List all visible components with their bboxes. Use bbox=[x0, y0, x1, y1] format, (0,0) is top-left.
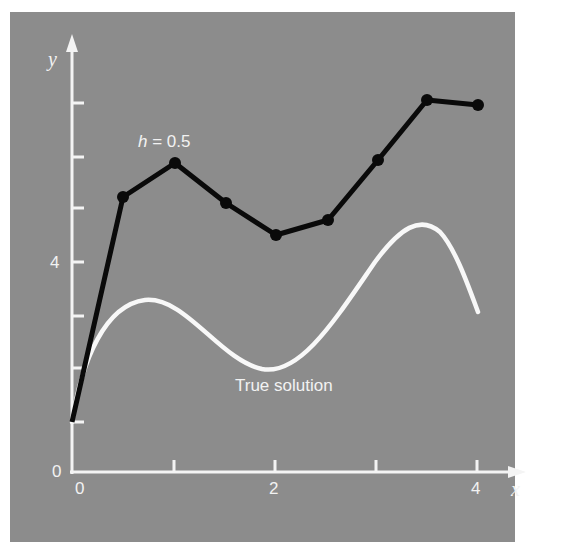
y-axis-label: y bbox=[46, 48, 57, 71]
y-axis-arrow-icon bbox=[66, 34, 78, 52]
x-axis-label: x bbox=[510, 478, 520, 500]
h-annotation: h = 0.5 bbox=[138, 132, 190, 151]
x-tick-label-2: 2 bbox=[269, 479, 278, 498]
x-tick-label-4: 4 bbox=[471, 479, 480, 498]
y-tick-label-4: 4 bbox=[50, 253, 59, 272]
y-tick-label-0: 0 bbox=[52, 462, 61, 481]
axes bbox=[70, 40, 508, 474]
euler-markers bbox=[117, 94, 484, 241]
chart: y x 0 0 2 4 4 h = 0.5 True solution bbox=[0, 0, 569, 558]
euler-h05-line bbox=[72, 100, 478, 422]
x-axis-arrow-icon bbox=[508, 466, 526, 478]
x-tick-label-0: 0 bbox=[75, 479, 84, 498]
true-solution-label: True solution bbox=[235, 376, 333, 395]
